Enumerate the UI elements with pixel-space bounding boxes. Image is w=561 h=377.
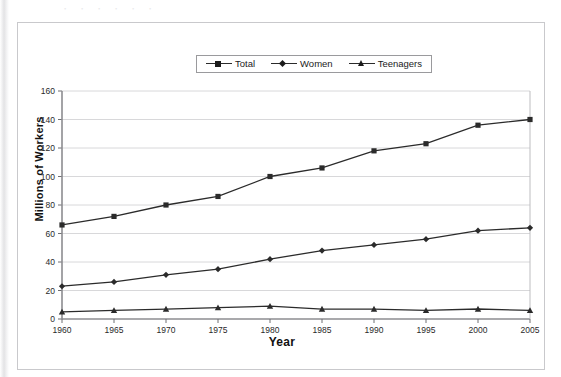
square-marker-icon: [111, 214, 116, 219]
figure-frame: 020406080100120140160 196019651970197519…: [17, 22, 545, 370]
data-series-group: [59, 117, 533, 315]
chart-plot-area: 020406080100120140160 196019651970197519…: [18, 23, 546, 371]
axes-group: [58, 91, 530, 323]
x-tick-label: 1990: [365, 325, 384, 335]
diamond-marker-icon: [527, 225, 533, 231]
square-marker-icon: [371, 148, 376, 153]
x-tick-label: 2000: [469, 325, 488, 335]
diamond-marker-icon: [423, 236, 429, 242]
gridlines-group: [62, 91, 530, 291]
diamond-marker-icon: [59, 283, 65, 289]
y-tick-label: 0: [50, 314, 55, 324]
square-marker-icon: [527, 117, 532, 122]
y-tick-label: 80: [46, 200, 56, 210]
diamond-marker-icon: [111, 279, 117, 285]
y-tick-label: 160: [41, 86, 55, 96]
y-tick-label: 40: [46, 257, 56, 267]
x-tick-label: 1980: [261, 325, 280, 335]
diamond-marker-icon: [215, 266, 221, 272]
diamond-marker-icon: [319, 248, 325, 254]
square-marker-icon: [319, 165, 324, 170]
y-tick-label: 20: [46, 286, 56, 296]
square-marker-icon: [59, 222, 64, 227]
square-marker-icon: [215, 194, 220, 199]
diamond-marker-icon: [267, 256, 273, 262]
x-tick-label: 1975: [209, 325, 228, 335]
legend-label-women: Women: [300, 59, 333, 69]
y-tick-label: 60: [46, 229, 56, 239]
square-marker-icon: [163, 202, 168, 207]
scanned-page-edge: [0, 0, 9, 377]
diamond-marker-icon: [163, 272, 169, 278]
x-tick-label: 1965: [105, 325, 124, 335]
diamond-marker-icon: [371, 242, 377, 248]
x-tick-label: 1985: [313, 325, 332, 335]
legend-label-total: Total: [235, 59, 255, 69]
square-marker-icon: [267, 174, 272, 179]
legend-label-teenagers: Teenagers: [378, 59, 422, 69]
scan-top-artifact: ㆍ ㆍ ㆍ ㆍ ㆍ ㆍ: [0, 0, 561, 14]
legend-item-women[interactable]: Women: [271, 59, 333, 69]
diamond-marker-icon: [271, 59, 297, 68]
square-marker-icon: [475, 123, 480, 128]
legend-item-teenagers[interactable]: Teenagers: [349, 59, 422, 69]
line-chart-svg: 020406080100120140160 196019651970197519…: [18, 23, 546, 371]
x-tick-label: 1960: [53, 325, 72, 335]
square-marker-icon: [206, 59, 232, 68]
square-marker-icon: [423, 141, 428, 146]
legend-item-total[interactable]: Total: [206, 59, 255, 69]
series-line-teenagers: [62, 306, 530, 312]
x-tick-label: 1970: [157, 325, 176, 335]
diamond-marker-icon: [475, 228, 481, 234]
y-axis-title: Millions of Workers: [33, 104, 45, 234]
chart-legend: Total Women Teenagers: [196, 55, 432, 73]
x-tick-label: 2005: [521, 325, 540, 335]
x-tick-labels-group: 1960196519701975198019851990199520002005: [53, 325, 540, 335]
x-axis-title: Year: [18, 335, 546, 349]
series-line-women: [62, 228, 530, 286]
x-tick-label: 1995: [417, 325, 436, 335]
triangle-marker-icon: [349, 59, 375, 68]
series-line-total: [62, 120, 530, 225]
